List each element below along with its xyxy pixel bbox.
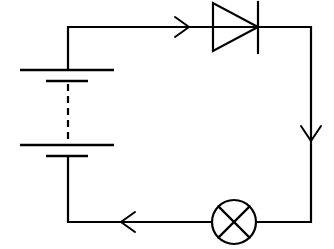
- lamp-symbol: [212, 200, 256, 244]
- wire-top-left: [68, 27, 213, 70]
- wire-top-right: [256, 27, 311, 222]
- wire-bottom: [68, 156, 212, 222]
- wires: [68, 27, 311, 222]
- diode-symbol: [213, 2, 258, 53]
- current-arrows: [121, 17, 321, 232]
- circuit-diagram: [0, 0, 334, 249]
- battery-symbol: [20, 70, 114, 156]
